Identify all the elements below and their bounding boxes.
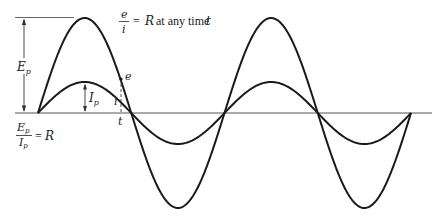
resistive-ac-waveform-diagram: Ep Ip e i t e i = R at any time t Ep Ip … bbox=[0, 0, 437, 219]
ratio-formula-any-time: e i = R at any time t bbox=[119, 8, 212, 36]
peak-ratio-formula: Ep Ip = R bbox=[16, 121, 54, 150]
instant-e-point bbox=[119, 77, 122, 80]
svg-text:Ep: Ep bbox=[16, 121, 30, 135]
svg-text:R: R bbox=[44, 129, 54, 143]
svg-text:=: = bbox=[35, 129, 42, 143]
svg-text:=: = bbox=[133, 14, 140, 28]
svg-text:e: e bbox=[121, 8, 128, 21]
svg-text:Ip: Ip bbox=[18, 136, 28, 150]
svg-text:at any time: at any time bbox=[153, 14, 212, 28]
instant-i-label: i bbox=[114, 95, 118, 108]
svg-text:i: i bbox=[122, 23, 126, 36]
instant-t-label: t bbox=[118, 115, 123, 128]
instant-e-label: e bbox=[125, 70, 132, 83]
ip-dimension-arrow bbox=[83, 84, 87, 113]
ep-dimension-label: Ep bbox=[16, 60, 31, 76]
svg-text:t: t bbox=[206, 14, 211, 28]
ip-dimension-label: Ip bbox=[88, 91, 99, 107]
